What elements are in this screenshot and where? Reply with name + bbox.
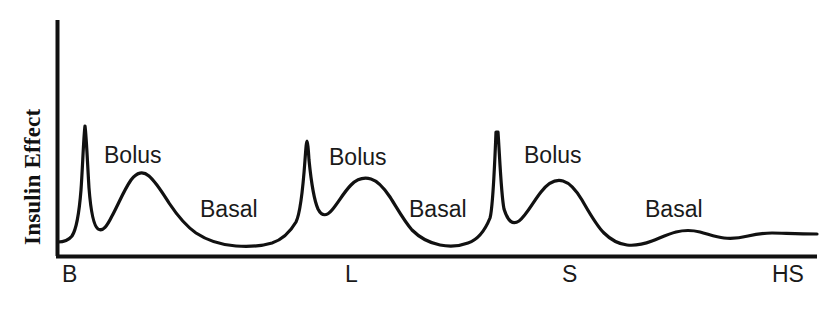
curve-label-basal-3: Basal	[645, 198, 703, 221]
curve-label-basal-2: Basal	[409, 198, 467, 221]
x-tick-label-b: B	[62, 263, 77, 286]
x-tick-label-s: S	[562, 263, 577, 286]
curve-label-bolus-3: Bolus	[524, 144, 582, 167]
insulin-effect-chart: Insulin Effect B L S HS Bolus Basal Bolu…	[0, 0, 835, 319]
curve-label-basal-1: Basal	[200, 198, 258, 221]
insulin-effect-curve	[58, 126, 817, 246]
y-axis-title: Insulin Effect	[20, 45, 46, 245]
curve-label-bolus-2: Bolus	[329, 146, 387, 169]
curve-label-bolus-1: Bolus	[104, 144, 162, 167]
x-tick-label-l: L	[345, 263, 358, 286]
x-tick-label-hs: HS	[772, 263, 804, 286]
